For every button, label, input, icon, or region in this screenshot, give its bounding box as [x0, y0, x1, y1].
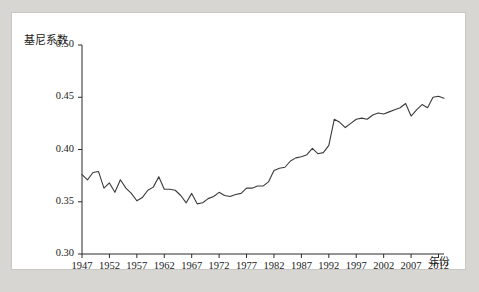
- chart-axes: [78, 45, 444, 258]
- gini-coefficient-line: [82, 96, 444, 204]
- line-chart-plot: [12, 13, 467, 271]
- chart-figure-frame: 基尼系数 年份 0.500.450.400.350.30 19471952195…: [11, 12, 466, 270]
- y-axis-ticks: [78, 45, 82, 254]
- x-axis-ticks: [82, 254, 439, 258]
